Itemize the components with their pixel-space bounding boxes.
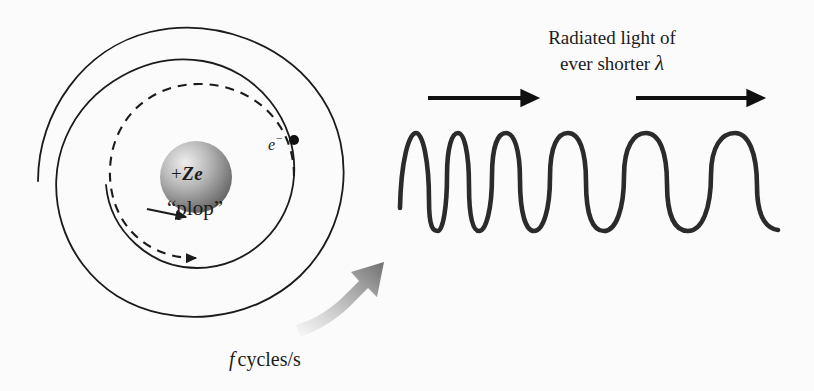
- nucleus-charge-symbol: Ze: [182, 163, 203, 184]
- caption-line-1: Radiated light of: [492, 26, 732, 50]
- plop-label: “plop”: [167, 196, 223, 221]
- caption-line-2-text: ever shorter: [560, 53, 655, 74]
- figure-canvas: +Ze “plop” e− fcycles/s Radiated light o…: [0, 0, 814, 391]
- radiated-wave: [400, 133, 778, 231]
- frequency-symbol: f: [229, 348, 238, 370]
- electron-label: e−: [268, 131, 283, 154]
- caption-line-2: ever shorter λ: [492, 50, 732, 76]
- rotation-arrow: [296, 262, 384, 337]
- electron-dot: [289, 135, 299, 145]
- lambda-symbol: λ: [655, 51, 664, 75]
- electron-charge-superscript: −: [275, 131, 283, 145]
- frequency-label: fcycles/s: [229, 348, 301, 371]
- frequency-unit: cycles/s: [238, 348, 301, 370]
- nucleus-charge-label: +Ze: [171, 163, 203, 185]
- nucleus-charge-sign: +: [171, 163, 182, 184]
- radiated-light-caption: Radiated light of ever shorter λ: [492, 26, 732, 76]
